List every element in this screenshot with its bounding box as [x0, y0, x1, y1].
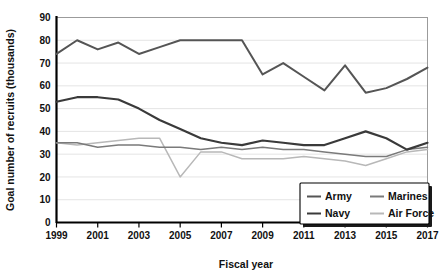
- series-line-army: [57, 40, 428, 92]
- x-tick-label: 2009: [251, 230, 274, 241]
- x-tick-label: 2011: [293, 230, 315, 241]
- legend-label-navy[interactable]: Navy: [325, 207, 350, 219]
- x-tick-label: 2003: [128, 230, 151, 241]
- x-tick-label: 2013: [334, 230, 357, 241]
- y-tick-label: 30: [39, 149, 51, 160]
- x-tick-label: 2005: [169, 230, 192, 241]
- y-tick-label: 0: [45, 217, 51, 228]
- x-tick-label: 2017: [416, 230, 439, 241]
- x-axis-tick-labels: 1999200120032005200720092011201320152017: [45, 230, 439, 241]
- legend-label-army[interactable]: Army: [325, 190, 352, 202]
- y-tick-label: 70: [39, 58, 51, 69]
- recruiting-goals-line-chart: 0102030405060708090 19992001200320052007…: [0, 0, 441, 280]
- y-tick-label: 50: [39, 103, 51, 114]
- y-tick-label: 20: [39, 172, 51, 183]
- x-tick-label: 1999: [45, 230, 68, 241]
- chart-container: 0102030405060708090 19992001200320052007…: [0, 0, 441, 280]
- y-tick-label: 80: [39, 35, 51, 46]
- y-tick-label: 90: [39, 12, 51, 23]
- legend[interactable]: ArmyMarinesNavyAir Force: [300, 183, 434, 227]
- y-tick-label: 40: [39, 126, 51, 137]
- x-axis-title: Fiscal year: [219, 258, 273, 270]
- x-tick-label: 2007: [210, 230, 233, 241]
- x-tick-label: 2015: [375, 230, 398, 241]
- x-tick-label: 2001: [87, 230, 110, 241]
- y-axis-title: Goal number of recruits (thousands): [4, 29, 16, 211]
- legend-label-air-force[interactable]: Air Force: [388, 207, 434, 219]
- y-tick-label: 10: [39, 194, 51, 205]
- legend-label-marines[interactable]: Marines: [388, 190, 428, 202]
- y-axis-tick-labels: 0102030405060708090: [39, 12, 51, 228]
- y-tick-label: 60: [39, 80, 51, 91]
